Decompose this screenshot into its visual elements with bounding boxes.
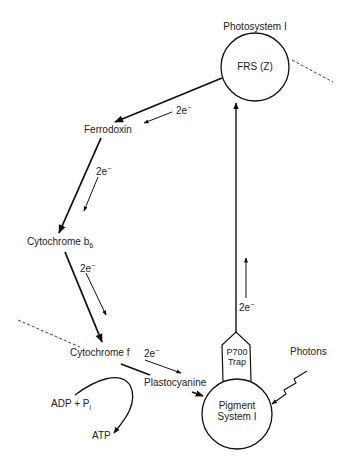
photosystem-diagram [0,0,345,465]
p700-trap-label: P700Trap [226,348,247,368]
photosystem-title: Photosystem I [223,21,286,32]
electron-label-b6-f: 2e− [80,262,95,274]
photons-label: Photons [290,346,327,357]
photon-zigzag [272,371,307,404]
pigment-system-label: PigmentSystem I [218,400,257,422]
cytochrome-b6-label: Cytochrome b6 [27,236,93,250]
dashed-line-left [18,320,80,347]
f-to-plastocyanine-electron-arrow [145,360,181,373]
electron-label-trap-frs: 2e− [239,301,254,313]
frs-to-ferrodoxin-electron-arrow [144,112,172,123]
plastocyanine-to-pigment-arrow [192,392,203,396]
ferrodoxin-to-b6-electron-arrow [84,177,98,211]
electron-label-ferrodoxin-b6: 2e− [96,165,111,177]
frs-label: FRS (Z) [237,61,273,72]
electron-label-frs-ferrodoxin: 2e− [176,104,191,116]
adp-label: ADP + Pi [51,398,91,412]
ferrodoxin-label: Ferrodoxin [84,124,132,135]
plastocyanine-label: Plastocyanine [144,377,206,388]
dashed-line-right [292,60,333,82]
f-to-plastocyanine-line [121,364,150,375]
frs-to-ferrodoxin-line [115,78,222,122]
cytochrome-f-label: Cytochrome f [70,347,129,358]
electron-label-f-plastocyanine: 2e− [144,347,159,359]
atp-label: ATP [92,430,111,441]
